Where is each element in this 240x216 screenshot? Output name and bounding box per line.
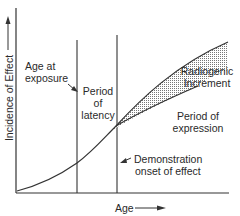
onset-pointer-head xyxy=(120,158,127,163)
radiogenic-increment-label: Radiogenic Increment xyxy=(176,65,238,89)
diagram-root: Incidence of Effect Age at exposure Peri… xyxy=(0,0,240,216)
demonstration-onset-label: Demonstration onset of effect xyxy=(134,153,202,177)
period-of-expression-label: Period of expression xyxy=(165,110,231,134)
x-axis-label: Age xyxy=(115,202,134,214)
age-at-exposure-label: Age at exposure xyxy=(25,60,68,84)
diagram-canvas xyxy=(0,0,240,216)
y-axis-label: Incidence of Effect xyxy=(3,43,15,153)
y-arrow-head xyxy=(6,16,11,24)
baseline-curve xyxy=(17,126,116,191)
period-of-latency-label: Period of latency xyxy=(79,85,117,121)
x-arrow-head xyxy=(157,206,166,211)
